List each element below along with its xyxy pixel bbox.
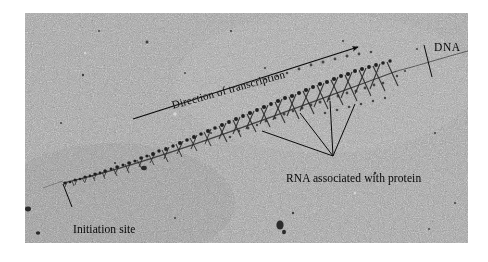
- rnp-fibrils: [65, 62, 398, 187]
- naked-dna-filament-left: [43, 181, 63, 188]
- rnp-granules: [64, 59, 392, 184]
- naked-dna-filament: [397, 51, 468, 71]
- transcription-unit: [25, 13, 468, 243]
- figure-root: Direction of transcription DNA RNA assoc…: [0, 0, 488, 262]
- rna-associated-with-protein-label: RNA associated with protein: [286, 172, 421, 184]
- initiation-site-label: Initiation site: [73, 223, 136, 235]
- micrograph-plate: Direction of transcription DNA RNA assoc…: [25, 13, 468, 243]
- dna-label: DNA: [434, 41, 461, 53]
